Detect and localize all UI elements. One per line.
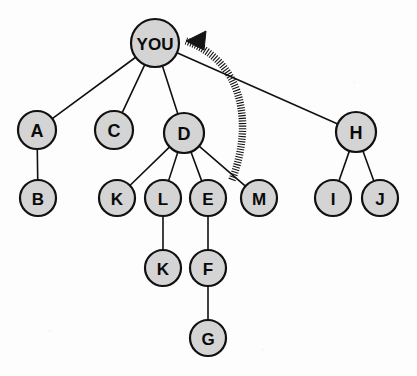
node-label-f: F bbox=[203, 260, 213, 279]
tree-edge-you-d bbox=[162, 66, 178, 114]
tree-node-h[interactable]: H bbox=[336, 112, 376, 152]
tree-edge-d-l bbox=[169, 152, 178, 181]
tree-edge-h-i bbox=[339, 151, 349, 181]
tree-node-m[interactable]: M bbox=[241, 180, 277, 216]
node-label-k1: K bbox=[111, 190, 124, 209]
tree-edge-h-j bbox=[363, 151, 374, 181]
relation-arrow-layer bbox=[186, 31, 243, 180]
node-label-you: YOU bbox=[137, 35, 174, 54]
tree-edge-you-h bbox=[177, 53, 338, 124]
node-label-i: I bbox=[331, 190, 336, 209]
tree-node-l[interactable]: L bbox=[145, 180, 181, 216]
tree-node-k1[interactable]: K bbox=[99, 180, 135, 216]
node-label-k2: K bbox=[157, 260, 170, 279]
tree-node-a[interactable]: A bbox=[18, 111, 56, 149]
relation-arrow-head-icon bbox=[186, 31, 206, 50]
tree-node-b[interactable]: B bbox=[20, 180, 56, 216]
tree-node-you[interactable]: YOU bbox=[131, 19, 179, 67]
node-label-l: L bbox=[158, 190, 168, 209]
tree-node-i[interactable]: I bbox=[315, 180, 351, 216]
tree-diagram: YOUACDHBKLEMIJKFG bbox=[0, 0, 417, 376]
node-label-m: M bbox=[252, 190, 266, 209]
node-label-c: C bbox=[108, 121, 121, 141]
tree-node-f[interactable]: F bbox=[190, 250, 226, 286]
node-label-j: J bbox=[375, 190, 384, 209]
node-label-e: E bbox=[202, 190, 213, 209]
node-label-g: G bbox=[201, 330, 214, 349]
node-label-h: H bbox=[350, 123, 363, 143]
tree-node-g[interactable]: G bbox=[190, 320, 226, 356]
node-label-d: D bbox=[178, 124, 191, 144]
node-label-a: A bbox=[31, 121, 44, 141]
tree-edge-you-c bbox=[122, 65, 145, 113]
tree-node-k2[interactable]: K bbox=[145, 250, 181, 286]
tree-node-e[interactable]: E bbox=[190, 180, 226, 216]
node-label-b: B bbox=[32, 190, 44, 209]
tree-node-c[interactable]: C bbox=[95, 111, 133, 149]
tree-edge-d-e bbox=[191, 152, 202, 181]
diagram-canvas: YOUACDHBKLEMIJKFG bbox=[0, 0, 417, 376]
tree-node-d[interactable]: D bbox=[164, 113, 204, 153]
tree-node-j[interactable]: J bbox=[362, 180, 398, 216]
